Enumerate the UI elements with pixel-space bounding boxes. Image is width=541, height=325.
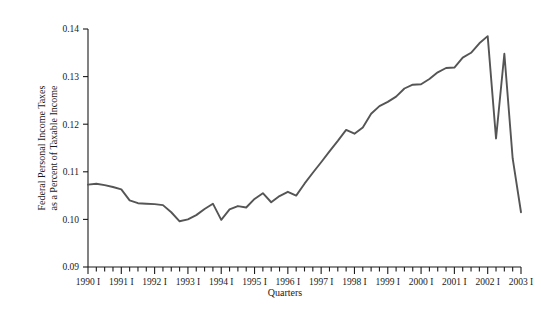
x-tick-label: 1997 I [309, 277, 334, 287]
x-tick-label: 1990 I [76, 277, 101, 287]
x-tick-label: 1993 I [176, 277, 201, 287]
x-tick-label: 1992 I [142, 277, 167, 287]
x-tick-label: 1994 I [209, 277, 234, 287]
x-axis-title: Quarters [268, 287, 303, 298]
x-tick-label: 1999 I [375, 277, 400, 287]
x-tick-label: 2000 I [409, 277, 434, 287]
y-tick-label: 0.09 [62, 262, 79, 272]
x-tick-label: 2002 I [475, 277, 500, 287]
x-tick-label: 1996 I [276, 277, 301, 287]
y-tick-label: 0.10 [62, 215, 79, 225]
y-axis-title-line2: as a Percent of Taxable Income [48, 85, 59, 210]
chart-figure: 0.090.100.110.120.130.14 1990 I1991 I199… [0, 0, 541, 325]
y-tick-label: 0.12 [62, 120, 79, 130]
x-tick-label: 1991 I [109, 277, 134, 287]
line-chart: 0.090.100.110.120.130.14 1990 I1991 I199… [0, 0, 541, 325]
x-tick-label: 1995 I [242, 277, 267, 287]
y-tick-label: 0.11 [63, 167, 80, 177]
x-tick-label: 2003 I [509, 277, 534, 287]
y-axis-title-line1: Federal Personal Income Taxes [36, 85, 47, 210]
y-tick-label: 0.14 [62, 24, 79, 34]
y-tick-label: 0.13 [62, 72, 79, 82]
x-tick-label: 2001 I [442, 277, 467, 287]
x-tick-label: 1998 I [342, 277, 367, 287]
